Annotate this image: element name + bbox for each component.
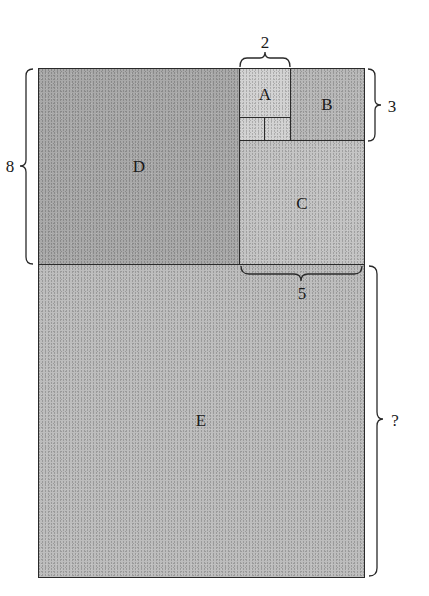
dimension-label-right-lower: ? <box>391 412 399 429</box>
brace-top-2 <box>240 52 290 67</box>
brace-right-question <box>369 266 383 576</box>
dimension-label-right-upper: 3 <box>388 98 397 115</box>
dimension-braces <box>0 0 429 596</box>
brace-right-3 <box>368 69 381 141</box>
dimension-label-left: 8 <box>6 158 15 175</box>
dimension-label-top: 2 <box>261 34 270 51</box>
dimension-label-middle: 5 <box>298 285 307 302</box>
brace-middle-5 <box>241 266 362 281</box>
brace-left-8 <box>20 69 33 264</box>
